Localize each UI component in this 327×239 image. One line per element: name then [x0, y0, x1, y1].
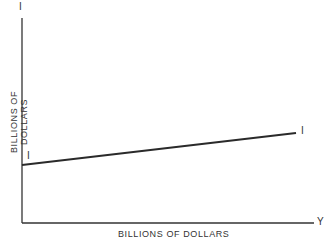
line-label-right: I: [301, 125, 304, 136]
x-axis-end-label: Y: [317, 216, 324, 227]
investment-line: [22, 133, 296, 165]
diagram-canvas: [0, 0, 327, 239]
y-axis-end-label: I: [19, 1, 22, 12]
x-axis-title: BILLIONS OF DOLLARS: [118, 229, 229, 239]
y-axis-title: BILLIONS OF DOLLARS: [9, 67, 29, 177]
line-label-left: I: [27, 150, 30, 161]
